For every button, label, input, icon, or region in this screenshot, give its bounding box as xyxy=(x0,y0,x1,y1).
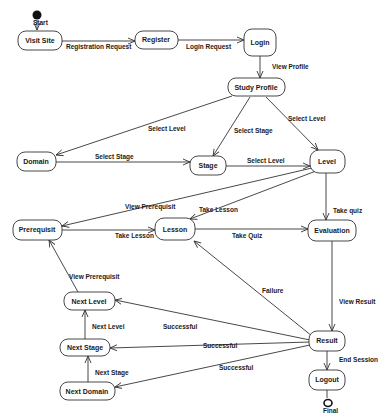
label-successful-next-domain: Successful xyxy=(219,364,254,371)
label-end-session: End Session xyxy=(339,356,378,363)
label-select-stage-profile: Select Stage xyxy=(234,127,273,135)
node-next-level: Next Level xyxy=(64,292,115,310)
node-next-stage: Next Stage xyxy=(60,339,110,356)
svg-text:Logout: Logout xyxy=(315,376,339,384)
node-study-profile: Study Profile xyxy=(228,78,285,96)
svg-text:Study Profile: Study Profile xyxy=(234,84,277,92)
label-take-lesson-level: Take Lesson xyxy=(199,206,238,213)
label-select-stage-domain: Select Stage xyxy=(95,153,134,161)
node-evaluation: Evaluation xyxy=(308,220,356,241)
label-successful-next-stage: Successful xyxy=(203,342,238,349)
start-node: Start xyxy=(33,11,49,31)
svg-text:Domain: Domain xyxy=(23,158,49,165)
svg-text:Register: Register xyxy=(142,36,170,44)
svg-text:Result: Result xyxy=(316,337,338,344)
start-label: Start xyxy=(33,19,49,26)
label-select-level-domain: Select Level xyxy=(148,125,186,132)
label-failure: Failure xyxy=(262,287,284,294)
edge-successful-next-level xyxy=(115,300,310,340)
svg-text:Level: Level xyxy=(318,158,336,165)
label-take-quiz-lesson: Take Quiz xyxy=(232,232,263,240)
label-login-request: Login Request xyxy=(186,43,232,51)
node-lesson: Lesson xyxy=(155,218,195,240)
svg-text:Next Domain: Next Domain xyxy=(66,388,109,395)
edge-profile-domain xyxy=(56,96,232,155)
node-register: Register xyxy=(135,31,178,49)
edge-profile-level xyxy=(266,97,318,150)
svg-text:Prerequisit: Prerequisit xyxy=(19,226,56,234)
diagram-canvas: Start Registration Request Login Request… xyxy=(0,0,391,416)
label-successful-next-level: Successful xyxy=(163,323,198,330)
svg-text:Next Level: Next Level xyxy=(71,298,106,305)
node-logout: Logout xyxy=(309,370,345,390)
svg-text:Login: Login xyxy=(250,39,269,47)
node-level: Level xyxy=(310,150,345,173)
label-select-level-profile: Select Level xyxy=(288,115,326,122)
node-prerequisit: Prerequisit xyxy=(13,220,62,240)
label-view-prerequisit-next-level: View Prerequisit xyxy=(69,273,120,281)
svg-text:Evaluation: Evaluation xyxy=(314,227,349,234)
edge-labels: Registration Request Login Request View … xyxy=(66,43,378,377)
label-select-level-stage: Select Level xyxy=(247,157,285,164)
label-next-stage: Next Stage xyxy=(95,369,129,377)
svg-text:Lesson: Lesson xyxy=(163,226,188,233)
label-view-profile: View Profile xyxy=(272,63,309,70)
node-domain: Domain xyxy=(17,152,56,171)
edge-next-level-prerequisit xyxy=(49,240,78,292)
final-node: Final xyxy=(323,400,338,415)
edge-level-prerequisit xyxy=(62,168,312,226)
label-take-lesson-prereq: Take Lesson xyxy=(115,232,154,239)
svg-text:Next Stage: Next Stage xyxy=(67,344,103,352)
label-view-result: View Result xyxy=(339,298,376,305)
edge-successful-next-domain xyxy=(115,345,310,387)
node-result: Result xyxy=(309,331,345,351)
node-login: Login xyxy=(244,29,276,56)
label-view-prerequisit-level: View Prerequisit xyxy=(125,203,176,211)
state-diagram: Start Registration Request Login Request… xyxy=(0,0,391,416)
node-stage: Stage xyxy=(190,156,226,175)
final-ring-icon xyxy=(324,400,332,407)
label-take-quiz-level: Take quiz xyxy=(333,207,363,215)
label-registration-request: Registration Request xyxy=(66,43,132,51)
final-label: Final xyxy=(323,407,338,414)
edge-failure xyxy=(194,241,312,336)
label-next-level: Next Level xyxy=(92,323,125,330)
svg-text:Stage: Stage xyxy=(198,162,217,170)
node-visit-site: Visit Site xyxy=(18,31,62,50)
node-next-domain: Next Domain xyxy=(60,382,115,400)
svg-text:Visit Site: Visit Site xyxy=(25,37,55,44)
